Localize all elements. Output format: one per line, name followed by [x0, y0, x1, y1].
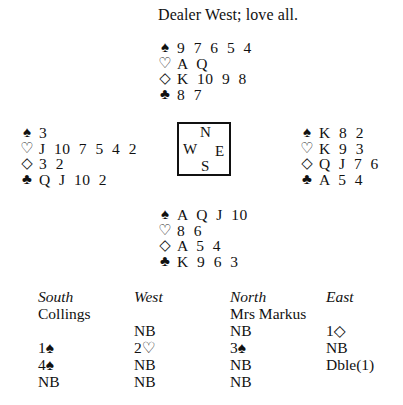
- bid: 2♡: [134, 339, 230, 356]
- west-hearts: ♡J 10 7 5 4 2: [18, 141, 137, 157]
- east-hand: ♠K 8 2 ♡K 9 3 ◇Q J 7 6 ♣A 5 4: [298, 125, 379, 187]
- compass-west: W: [183, 141, 197, 158]
- bid: NB: [134, 356, 230, 373]
- south-spades: ♠A Q J 10: [156, 207, 248, 223]
- header-south: South: [38, 288, 134, 305]
- north-hand: ♠9 7 6 5 4 ♡A Q ◇K 10 9 8 ♣8 7: [156, 40, 252, 102]
- bid: NB: [38, 373, 134, 390]
- heart-icon: ♡: [156, 223, 174, 239]
- diamond-icon: ◇: [18, 156, 36, 172]
- diamond-icon: ◇: [156, 71, 174, 87]
- player-west: [134, 305, 230, 322]
- east-hearts: ♡K 9 3: [298, 141, 379, 157]
- east-spades: ♠K 8 2: [298, 125, 379, 141]
- bid: NB: [134, 322, 230, 339]
- header-east: East: [326, 288, 403, 305]
- north-diamonds: ◇K 10 9 8: [156, 71, 252, 87]
- bid: NB: [326, 339, 403, 356]
- header-north: North: [230, 288, 326, 305]
- deal-title: Dealer West; love all.: [158, 6, 298, 24]
- south-hand: ♠A Q J 10 ♡8 6 ◇A 5 4 ♣K 9 6 3: [156, 207, 248, 269]
- diamond-icon: ◇: [298, 156, 316, 172]
- player-south: Collings: [38, 305, 134, 322]
- east-clubs: ♣A 5 4: [298, 172, 379, 188]
- players-row: Collings Mrs Markus: [38, 305, 403, 322]
- west-diamonds: ◇3 2: [18, 156, 137, 172]
- spade-icon: ♠: [18, 125, 36, 141]
- compass-east: E: [215, 143, 224, 160]
- club-icon: ♣: [156, 87, 174, 103]
- bidding-round: NB NB 1◇: [38, 322, 403, 339]
- west-clubs: ♣Q J 10 2: [18, 172, 137, 188]
- heart-icon: ♡: [156, 56, 174, 72]
- south-hearts: ♡8 6: [156, 223, 248, 239]
- spade-icon: ♠: [156, 207, 174, 223]
- bidding-round: NB NB NB: [38, 373, 403, 390]
- player-north: Mrs Markus: [230, 305, 326, 322]
- bid: 3♠: [230, 339, 326, 356]
- header-west: West: [134, 288, 230, 305]
- bid: NB: [230, 322, 326, 339]
- heart-icon: ♡: [18, 141, 36, 157]
- bid: 1◇: [326, 322, 403, 339]
- bid: Dble(1): [326, 356, 403, 373]
- south-clubs: ♣K 9 6 3: [156, 254, 248, 270]
- bidding-round: 1♠ 2♡ 3♠ NB: [38, 339, 403, 356]
- player-east: [326, 305, 403, 322]
- west-hand: ♠3 ♡J 10 7 5 4 2 ◇3 2 ♣Q J 10 2: [18, 125, 137, 187]
- north-clubs: ♣8 7: [156, 87, 252, 103]
- compass-box: N W E S: [177, 122, 231, 176]
- bidding-round: 4♠ NB NB Dble(1): [38, 356, 403, 373]
- spade-icon: ♠: [298, 125, 316, 141]
- compass-south: S: [201, 158, 209, 175]
- spade-icon: ♠: [156, 40, 174, 56]
- bidding-header-row: South West North East: [38, 288, 403, 305]
- club-icon: ♣: [156, 254, 174, 270]
- diamond-icon: ◇: [156, 238, 174, 254]
- south-diamonds: ◇A 5 4: [156, 238, 248, 254]
- west-spades: ♠3: [18, 125, 137, 141]
- north-spades: ♠9 7 6 5 4: [156, 40, 252, 56]
- bid: NB: [230, 356, 326, 373]
- east-diamonds: ◇Q J 7 6: [298, 156, 379, 172]
- bid: [326, 373, 403, 390]
- bid: 1♠: [38, 339, 134, 356]
- bid: [38, 322, 134, 339]
- compass-north: N: [200, 124, 211, 141]
- bid: NB: [230, 373, 326, 390]
- bidding-table: South West North East Collings Mrs Marku…: [38, 288, 403, 390]
- club-icon: ♣: [18, 172, 36, 188]
- bid: NB: [134, 373, 230, 390]
- heart-icon: ♡: [298, 141, 316, 157]
- bid: 4♠: [38, 356, 134, 373]
- north-hearts: ♡A Q: [156, 56, 252, 72]
- club-icon: ♣: [298, 172, 316, 188]
